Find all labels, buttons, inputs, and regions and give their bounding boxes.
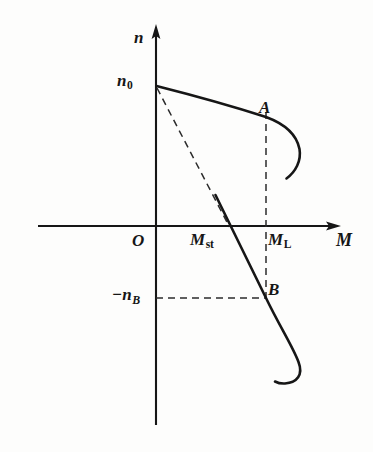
- origin-label: O: [132, 232, 144, 249]
- m-l-subscript: L: [284, 238, 292, 251]
- dashed-lines-group: [156, 88, 266, 301]
- y-axis-label: n: [134, 29, 143, 46]
- m-l-base: M: [268, 230, 283, 249]
- minus-nb-subscript: B: [132, 293, 140, 307]
- minus-nb-base: −n: [112, 285, 132, 304]
- x-axis-label: M: [336, 231, 352, 249]
- artificial-characteristic-dashed-line: [157, 88, 230, 227]
- m-st-subscript: st: [206, 238, 214, 251]
- n0-tick-label: n0: [117, 72, 133, 89]
- minus-nb-tick-label: −nB: [112, 286, 140, 303]
- point-a-label: A: [259, 99, 270, 116]
- axes-group: [38, 24, 341, 425]
- n0-subscript: 0: [127, 79, 133, 92]
- speed-torque-characteristic-figure: n n0 O Mst ML M A B −nB: [0, 0, 373, 452]
- plot-canvas: [0, 0, 373, 452]
- natural-characteristic-upper-curve: [157, 86, 300, 179]
- point-b-label: B: [268, 281, 279, 298]
- n0-base: n: [117, 71, 126, 90]
- m-st-tick-label: Mst: [190, 231, 214, 248]
- m-l-tick-label: ML: [268, 231, 291, 248]
- m-st-base: M: [190, 230, 205, 249]
- braking-characteristic-lower-curve: [216, 195, 301, 384]
